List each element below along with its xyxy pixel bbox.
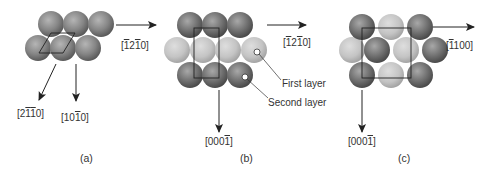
atom-layer-top [38, 11, 114, 37]
panel-a: [1210] [2110] [1010] (a) [17, 11, 156, 164]
atom-dark [422, 37, 448, 63]
atom-light [339, 37, 365, 63]
atom-light [378, 14, 404, 40]
atom-second-layer [227, 12, 253, 38]
atom [75, 35, 101, 61]
atom-second-layer [177, 12, 203, 38]
direction-label-a-down: [1010] [61, 112, 89, 123]
panel-caption-c: (c) [398, 152, 410, 164]
first-layer-leader [259, 54, 281, 80]
direction-label-b-down: [0001] [205, 136, 233, 147]
atom-layer-bottom [25, 35, 101, 61]
direction-label-c-down: [0001] [348, 136, 376, 147]
atom [50, 35, 76, 61]
direction-label-c-right: [1100] [446, 40, 473, 51]
direction-label-a-right: [1210] [121, 40, 149, 51]
atom-second-layer [227, 62, 253, 88]
second-layer-label: Second layer [268, 97, 327, 108]
panel-caption-b: (b) [240, 152, 253, 164]
atom-second-layer [202, 62, 228, 88]
atom-light [378, 62, 404, 88]
panel-caption-a: (a) [80, 152, 93, 164]
atom-light [393, 37, 419, 63]
direction-label-a-diagonal: [2110] [17, 108, 44, 119]
atom-row-top-dark [177, 12, 253, 38]
atom-first-layer [164, 37, 190, 63]
atom-row-middle-light [164, 37, 267, 63]
crystal-diagram: [1210] [2110] [1010] (a) [0, 0, 485, 175]
atom-second-layer [177, 62, 203, 88]
panel-c: [1100] [0001] (c) [339, 14, 474, 164]
second-layer-leader [247, 79, 268, 98]
atom-second-layer [202, 12, 228, 38]
atom-dark [364, 37, 390, 63]
atom [88, 11, 114, 37]
atom-row-bottom-dark [177, 62, 253, 88]
direction-label-b-right: [1210] [283, 37, 311, 48]
first-layer-label: First layer [282, 78, 327, 89]
direction-arrow-diagonal [39, 64, 56, 100]
panel-b: First layer Second layer [1210] [0001] (… [164, 12, 327, 164]
